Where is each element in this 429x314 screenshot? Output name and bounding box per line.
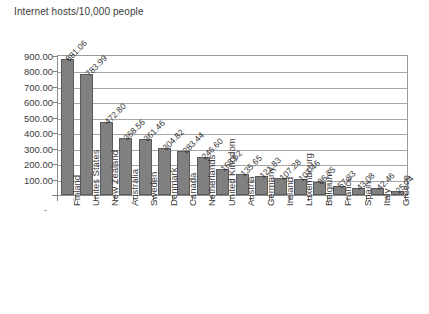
x-axis-category-label: United Kingdom [226, 138, 237, 206]
x-axis-category-label: Greece [400, 175, 411, 206]
x-axis-category-label: Unites States [90, 150, 101, 207]
x-axis-category-label: Canada [187, 173, 198, 206]
x-axis-category-label: Netherlands [206, 155, 217, 206]
x-axis-category-label: Luxembourg [303, 153, 314, 206]
x-axis-category-label: Ireland [284, 177, 295, 206]
bar-chart: Internet hosts/10,000 people 900.00800.0… [0, 0, 429, 314]
x-axis-category-label: France [342, 176, 353, 206]
x-axis-category-label: Italy [381, 189, 392, 206]
x-axis-category-label: Belgium [323, 172, 334, 206]
x-axis-category-label: Denmark [168, 167, 179, 206]
x-axis-category-label: Australia [129, 169, 140, 206]
x-axis-category-labels: FinlandUnites StatesNew ZealandAustralia… [0, 0, 429, 314]
x-axis-category-label: Finland [71, 175, 82, 206]
x-axis-category-label: New Zealand [109, 150, 120, 206]
x-axis-category-label: Austria [245, 176, 256, 206]
x-axis-category-label: Germany [265, 167, 276, 206]
x-axis-category-label: Spain [362, 182, 373, 206]
x-axis-category-label: Sweden [148, 172, 159, 206]
